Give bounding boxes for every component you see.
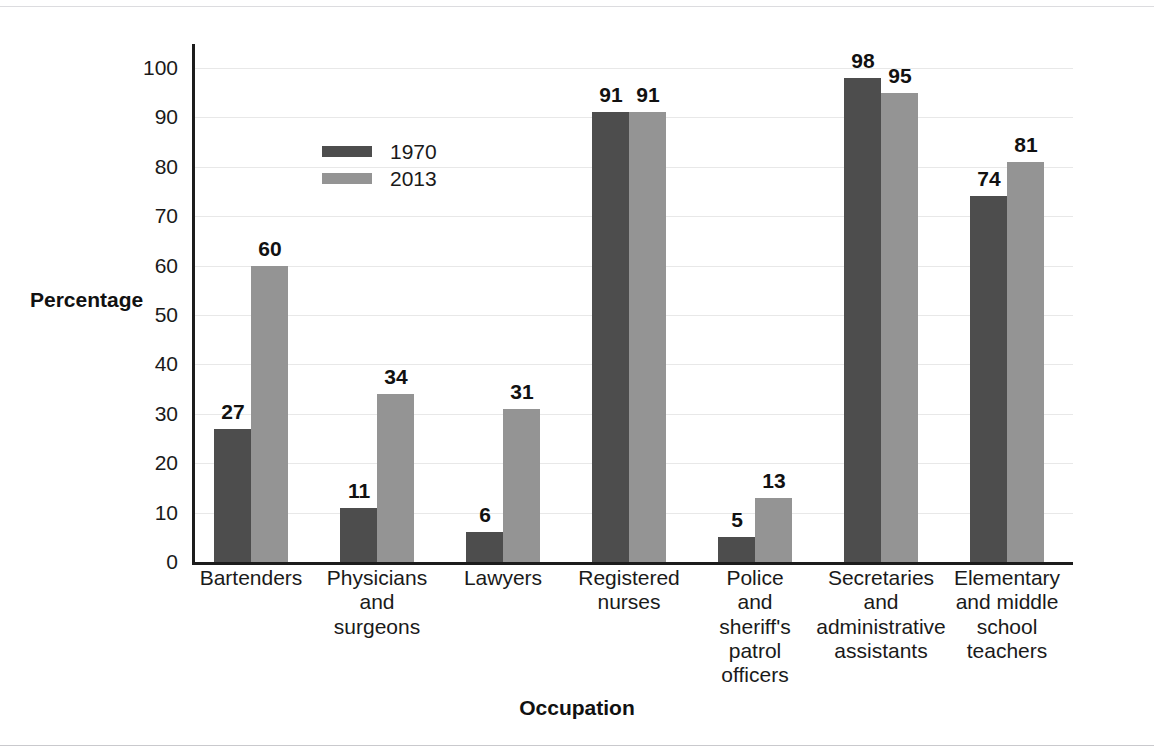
- bar-1970[interactable]: [970, 196, 1007, 562]
- legend-swatch-icon: [322, 146, 372, 157]
- bar-value-label: 34: [366, 366, 426, 387]
- y-axis-tick-label: 80: [118, 156, 178, 177]
- bar-group: 9191: [592, 44, 666, 562]
- bar-1970[interactable]: [592, 112, 629, 562]
- category-label-line: officers: [675, 663, 835, 687]
- bar-1970[interactable]: [718, 537, 755, 562]
- x-axis-title: Occupation: [0, 696, 1154, 720]
- y-axis-tick-label: 90: [118, 106, 178, 127]
- y-axis-tick-label: 60: [118, 255, 178, 276]
- x-axis-category-label: Elementaryand middleschoolteachers: [927, 566, 1087, 663]
- category-label-line: surgeons: [297, 615, 457, 639]
- category-label-line: teachers: [927, 639, 1087, 663]
- bar-2013[interactable]: [629, 112, 666, 562]
- x-axis-line: [192, 562, 1073, 565]
- y-axis-tick-label: 20: [118, 452, 178, 473]
- bar-value-label: 31: [492, 381, 552, 402]
- chart-legend: 19702013: [322, 138, 437, 192]
- bar-1970[interactable]: [844, 78, 881, 562]
- bar-1970[interactable]: [466, 532, 503, 562]
- bar-value-label: 81: [996, 134, 1056, 155]
- bar-group: 7481: [970, 44, 1044, 562]
- bar-value-label: 91: [618, 84, 678, 105]
- bar-group: 1134: [340, 44, 414, 562]
- y-axis-tick-label: 0: [118, 551, 178, 572]
- y-axis-tick-label: 50: [118, 304, 178, 325]
- category-label-line: Elementary: [927, 566, 1087, 590]
- bar-2013[interactable]: [881, 93, 918, 562]
- bar-1970[interactable]: [214, 429, 251, 562]
- y-axis-tick-label: 30: [118, 403, 178, 424]
- scan-edge-bottom: [0, 745, 1154, 746]
- bar-value-label: 13: [744, 470, 804, 491]
- bar-1970[interactable]: [340, 508, 377, 562]
- y-axis-tick-label: 70: [118, 205, 178, 226]
- bar-2013[interactable]: [251, 266, 288, 562]
- bar-group: 513: [718, 44, 792, 562]
- y-axis-tick-label: 40: [118, 353, 178, 374]
- plot-area: 27601134631919151398957481: [192, 44, 1073, 562]
- bar-2013[interactable]: [503, 409, 540, 562]
- legend-swatch-icon: [322, 173, 372, 184]
- category-label-line: and middle: [927, 590, 1087, 614]
- bar-2013[interactable]: [377, 394, 414, 562]
- legend-entry[interactable]: 1970: [322, 138, 437, 165]
- bar-group: 631: [466, 44, 540, 562]
- bar-2013[interactable]: [755, 498, 792, 562]
- y-axis-tick-label: 10: [118, 502, 178, 523]
- bar-2013[interactable]: [1007, 162, 1044, 562]
- legend-label: 1970: [390, 141, 437, 162]
- y-axis-tick-label: 100: [118, 57, 178, 78]
- bar-chart-figure: Percentage 0102030405060708090100 276011…: [0, 0, 1154, 753]
- bar-value-label: 60: [240, 238, 300, 259]
- bar-group: 9895: [844, 44, 918, 562]
- bar-value-label: 95: [870, 65, 930, 86]
- y-axis-line: [192, 44, 195, 562]
- legend-entry[interactable]: 2013: [322, 165, 437, 192]
- category-label-line: and: [297, 590, 457, 614]
- bar-group: 2760: [214, 44, 288, 562]
- category-label-line: school: [927, 615, 1087, 639]
- scan-edge-top: [0, 6, 1154, 7]
- legend-label: 2013: [390, 168, 437, 189]
